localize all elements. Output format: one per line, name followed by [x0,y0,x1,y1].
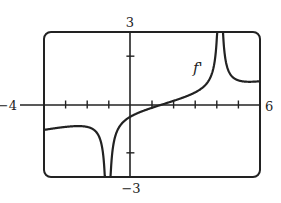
f-prime-label: f' [192,59,203,77]
graph: −4 6 3 −3 f' [0,0,281,203]
x-max-label: 6 [265,99,273,114]
y-min-label: −3 [121,181,140,196]
y-max-label: 3 [126,15,134,30]
x-min-label: −4 [0,98,17,113]
